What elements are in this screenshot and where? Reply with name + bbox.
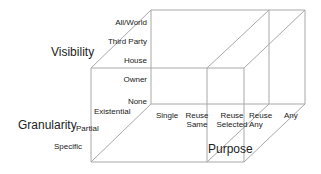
axis-title-purpose: Purpose — [208, 143, 253, 156]
cube-wireframe — [0, 0, 321, 174]
granularity-level-specific: Specific — [54, 142, 82, 151]
purpose-level-reuse-any: Reuse Any — [249, 111, 272, 129]
visibility-level-house: House — [124, 56, 147, 65]
visibility-level-all-world: All/World — [115, 18, 147, 27]
top-mid-diagonal — [207, 10, 269, 68]
visibility-level-none: None — [128, 97, 147, 106]
purpose-level-reuse-selected: Reuse Selected — [215, 111, 249, 129]
visibility-level-third-party: Third Party — [108, 37, 147, 46]
top-right-diagonal — [244, 10, 305, 68]
axis-title-granularity: Granularity — [18, 119, 77, 132]
granularity-level-partial: Partial — [76, 124, 99, 133]
granularity-level-existential: Existential — [94, 107, 130, 116]
visibility-level-owner: Owner — [123, 75, 147, 84]
purpose-level-reuse-same: Reuse Same — [184, 111, 210, 129]
axis-title-visibility: Visibility — [51, 46, 94, 59]
purpose-level-single: Single — [154, 111, 180, 120]
purpose-level-any: Any — [284, 111, 298, 120]
